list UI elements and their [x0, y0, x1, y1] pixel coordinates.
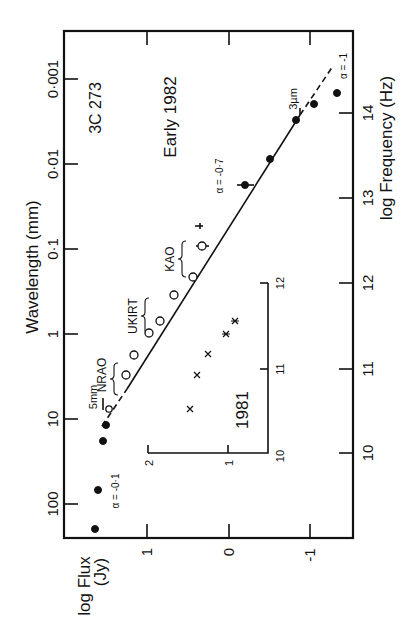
kao-brace	[178, 241, 186, 277]
alpha-low-label: α = -0·1	[110, 473, 121, 508]
chart-title: Early 1982	[161, 76, 180, 157]
data-point	[156, 317, 164, 325]
data-point	[311, 101, 318, 108]
inset-freq-tick-11: 11	[274, 363, 286, 374]
sed-chart: 100 10 1 0·1 0·01 0·001 Wavelength (mm) …	[0, 0, 410, 624]
inset-flux-tick-2: 2	[143, 460, 155, 466]
data-point	[95, 487, 102, 494]
plot-frame	[64, 31, 353, 538]
data-point	[334, 90, 341, 97]
wavelength-tick-labels: 100 10 1 0·1 0·01 0·001	[44, 60, 61, 517]
freq-tick-12: 12	[359, 275, 376, 292]
kao-upper-limit	[195, 223, 203, 229]
kao-label: KAO	[163, 246, 177, 271]
inset-1981: 12 11 10 2 1 1981	[143, 277, 286, 466]
flux-tick-1: 1	[138, 548, 155, 556]
data-point	[293, 117, 300, 124]
flux-tick-0: 0	[220, 548, 237, 556]
data-point	[267, 156, 274, 163]
cross-point	[222, 331, 230, 337]
ukirt-label: UKIRT	[126, 297, 140, 333]
nrao-brace	[110, 363, 118, 395]
cross-point	[187, 406, 193, 412]
data-point	[92, 526, 99, 533]
data-point	[122, 371, 130, 379]
cross-point	[231, 318, 239, 324]
inset-freq-tick-10: 10	[274, 450, 286, 462]
frequency-ticks	[339, 113, 353, 453]
freq-tick-11: 11	[359, 361, 376, 377]
wavelength-ticks	[64, 79, 78, 504]
freq-tick-10: 10	[359, 445, 376, 462]
data-point	[100, 438, 107, 445]
inset-year-label: 1981	[233, 391, 252, 429]
frequency-axis-label: log Frequency (Hz)	[377, 76, 396, 221]
series-open	[106, 242, 206, 412]
data-point	[198, 242, 206, 250]
inset-freq-tick-12: 12	[274, 277, 286, 289]
flux-axis-label-line2: (Jy)	[91, 558, 110, 586]
data-point	[242, 182, 249, 189]
freq-tick-14: 14	[359, 105, 376, 122]
frequency-tick-labels: 14 13 12 11 10	[359, 105, 376, 462]
inset-crosses	[187, 318, 239, 412]
wl-tick-10: 10	[44, 411, 61, 428]
cross-point	[194, 372, 200, 378]
3um-label: 3µm	[287, 88, 299, 110]
data-point	[106, 406, 112, 412]
inset-flux-tick-1: 1	[223, 460, 235, 466]
data-point	[189, 273, 197, 281]
data-point	[130, 351, 138, 359]
data-point	[170, 291, 178, 299]
flux-tick-labels: 1 0 -1	[138, 548, 318, 562]
wl-tick-1: 1	[44, 330, 61, 338]
wavelength-axis-label: Wavelength (mm)	[23, 200, 42, 334]
data-point	[103, 422, 110, 429]
wl-tick-0-1: 0·1	[44, 238, 61, 260]
flux-tick-minus1: -1	[301, 548, 318, 561]
data-point	[145, 329, 153, 337]
nrao-label: NRAO	[95, 358, 109, 393]
wl-tick-0-01: 0·01	[44, 149, 61, 179]
alpha-high-label: α = -1	[338, 53, 349, 80]
series-filled-low	[92, 422, 110, 533]
wl-tick-100: 100	[44, 491, 61, 516]
alpha-mid-label: α = -0·7	[214, 158, 225, 193]
source-label: 3C 273	[87, 82, 104, 134]
fit-line-solid	[127, 115, 300, 389]
freq-tick-13: 13	[359, 190, 376, 207]
fit-line-dashed-high	[300, 66, 333, 115]
wl-tick-0-001: 0·001	[44, 60, 61, 98]
cross-point	[205, 351, 211, 357]
